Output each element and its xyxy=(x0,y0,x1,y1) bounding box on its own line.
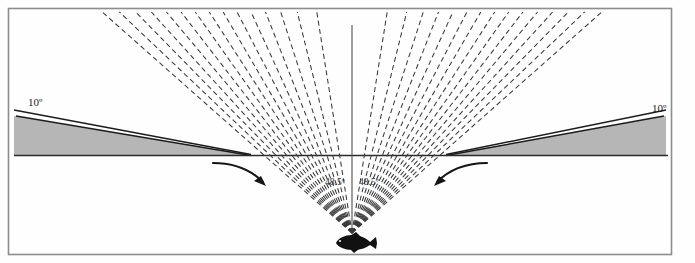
figure-root: 10º 10º 48.5º 48.5º xyxy=(0,0,695,263)
fish-eye xyxy=(339,240,341,242)
center-right-angle-label: 48.5º xyxy=(359,177,379,187)
center-left-angle-label: 48.5º xyxy=(325,177,345,187)
left-angle-label: 10º xyxy=(28,96,43,108)
right-angle-label: 10º xyxy=(652,102,667,114)
snells-window-diagram: 10º 10º 48.5º 48.5º xyxy=(0,0,695,263)
